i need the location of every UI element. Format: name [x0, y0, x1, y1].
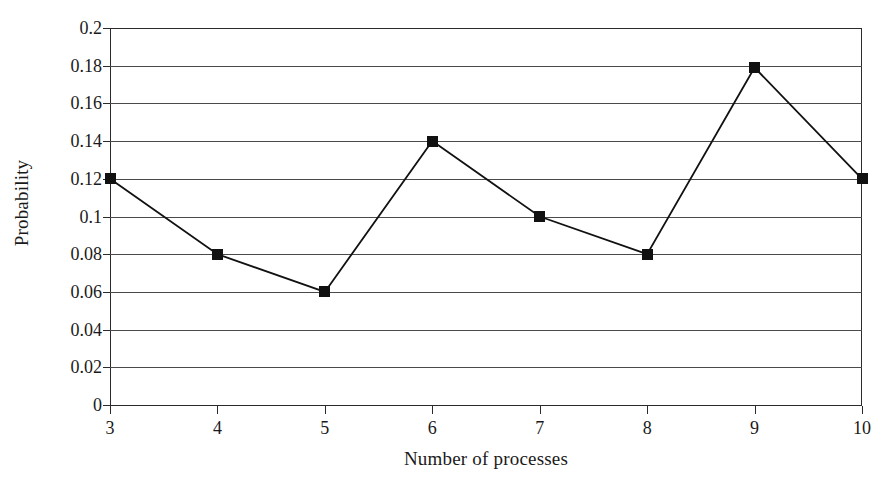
x-axis-tick-mark: [217, 406, 218, 414]
gridline-horizontal: [110, 367, 862, 368]
gridline-horizontal: [110, 217, 862, 218]
y-axis-tick-mark: [103, 66, 110, 67]
data-point-marker: [534, 211, 545, 222]
y-axis-tick-label: 0.18: [46, 55, 102, 76]
y-axis-tick-label: 0.04: [46, 319, 102, 340]
y-axis-tick-label: 0.12: [46, 168, 102, 189]
x-axis-tick-mark: [110, 406, 111, 414]
data-point-marker: [427, 136, 438, 147]
x-axis-title-text: Number of processes: [404, 448, 568, 469]
gridline-horizontal: [110, 179, 862, 180]
plot-area: [110, 28, 862, 405]
gridline-horizontal: [110, 405, 862, 406]
y-axis-tick-label: 0: [46, 395, 102, 416]
y-axis-tick-label: 0.2: [46, 18, 102, 39]
y-axis-tick-mark: [103, 28, 110, 29]
y-axis-title: Probability: [0, 0, 44, 405]
y-axis-tick-label: 0.14: [46, 131, 102, 152]
gridline-horizontal: [110, 292, 862, 293]
y-axis-tick-label: 0.08: [46, 244, 102, 265]
gridline-horizontal: [110, 330, 862, 331]
chart-figure: Probability 00.020.040.060.080.10.120.14…: [0, 0, 888, 493]
data-point-marker: [642, 249, 653, 260]
gridline-horizontal: [110, 103, 862, 104]
y-axis-tick-mark: [103, 367, 110, 368]
x-axis-tick-label: 8: [627, 418, 667, 439]
y-axis-tick-label: 0.06: [46, 281, 102, 302]
x-axis-tick-mark: [540, 406, 541, 414]
data-point-marker: [749, 62, 760, 73]
y-axis-tick-mark: [103, 141, 110, 142]
x-axis-tick-mark: [432, 406, 433, 414]
y-axis-tick-mark: [103, 330, 110, 331]
x-axis-tick-label: 3: [90, 418, 130, 439]
y-axis-tick-label: 0.02: [46, 357, 102, 378]
x-axis-tick-label: 4: [197, 418, 237, 439]
x-axis-tick-mark: [755, 406, 756, 414]
y-axis-tick-mark: [103, 217, 110, 218]
x-axis-tick-mark: [647, 406, 648, 414]
x-axis-tick-mark: [325, 406, 326, 414]
gridline-horizontal: [110, 28, 862, 29]
x-axis-title: Number of processes: [110, 448, 862, 470]
data-point-marker: [105, 173, 116, 184]
y-axis-tick-mark: [103, 405, 110, 406]
x-axis-tick-label: 5: [305, 418, 345, 439]
y-axis-tick-mark: [103, 292, 110, 293]
data-point-marker: [212, 249, 223, 260]
x-axis-tick-label: 9: [735, 418, 775, 439]
data-point-marker: [857, 173, 868, 184]
data-point-marker: [319, 286, 330, 297]
y-axis-title-text: Probability: [11, 159, 33, 246]
x-axis-tick-label: 7: [520, 418, 560, 439]
x-axis-tick-mark: [862, 406, 863, 414]
y-axis-tick-label: 0.16: [46, 93, 102, 114]
gridline-horizontal: [110, 141, 862, 142]
y-axis-tick-mark: [103, 254, 110, 255]
x-axis-tick-label: 10: [842, 418, 882, 439]
y-axis-tick-mark: [103, 103, 110, 104]
y-axis-tick-label: 0.1: [46, 206, 102, 227]
x-axis-tick-label: 6: [412, 418, 452, 439]
